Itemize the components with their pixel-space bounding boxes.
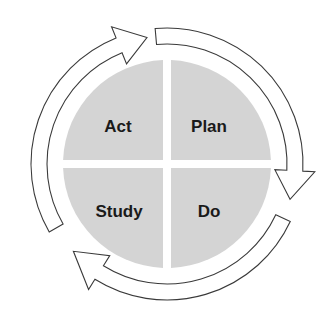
pdsa-cycle-diagram: Act Plan Study Do (0, 0, 335, 328)
label-do: Do (198, 202, 221, 221)
quadrant-pie (63, 60, 271, 268)
label-study: Study (95, 202, 143, 221)
label-plan: Plan (191, 117, 227, 136)
label-act: Act (104, 117, 132, 136)
